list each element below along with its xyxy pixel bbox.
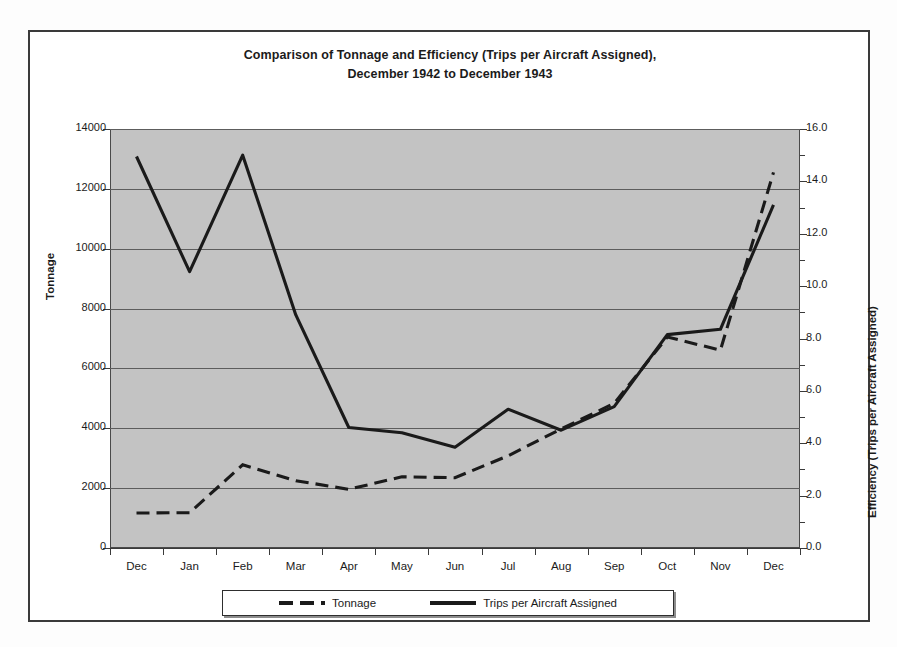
- y-tick-label-right: 12.0: [806, 226, 848, 238]
- y-tick-label-left: 4000: [48, 420, 106, 432]
- solid-line-icon: [430, 598, 476, 608]
- y-tick-label-left: 10000: [48, 241, 106, 253]
- series-line-trips: [137, 155, 774, 447]
- y-tick-label-right: 2.0: [806, 488, 848, 500]
- y-tick-right-minor: [800, 469, 805, 470]
- x-tick-label: Jan: [162, 560, 218, 572]
- y-tick-right-minor: [800, 208, 805, 209]
- chart-title-line-1: Comparison of Tonnage and Efficiency (Tr…: [244, 48, 657, 62]
- x-tick-label: Dec: [745, 560, 801, 572]
- x-tick: [110, 548, 111, 555]
- y-tick-label-left: 0: [48, 540, 106, 552]
- x-tick: [322, 548, 323, 555]
- dashed-line-icon: [279, 598, 325, 608]
- x-tick: [482, 548, 483, 555]
- x-tick: [694, 548, 695, 555]
- y-tick-label-left: 8000: [48, 301, 106, 313]
- legend-label-tonnage: Tonnage: [332, 597, 376, 609]
- x-tick: [269, 548, 270, 555]
- legend-item-trips: Trips per Aircraft Assigned: [430, 597, 617, 609]
- x-tick-label: Dec: [109, 560, 165, 572]
- y-tick-label-right: 4.0: [806, 435, 848, 447]
- x-tick: [163, 548, 164, 555]
- y-tick-right-minor: [800, 312, 805, 313]
- y-axis-right-title: Efficiency (Trips per Aircraft Assigned): [866, 306, 878, 518]
- x-tick: [747, 548, 748, 555]
- y-tick-label-right: 6.0: [806, 383, 848, 395]
- x-tick-label: Nov: [692, 560, 748, 572]
- plot-wrapper: 02000400060008000100001200014000 0.02.04…: [110, 129, 800, 548]
- chart-title-line-2: December 1942 to December 1943: [120, 65, 780, 84]
- x-tick: [216, 548, 217, 555]
- legend-item-tonnage: Tonnage: [279, 597, 376, 609]
- y-tick-label-left: 12000: [48, 181, 106, 193]
- y-tick-right-minor: [800, 522, 805, 523]
- y-tick-right-minor: [800, 260, 805, 261]
- y-tick-right-minor: [800, 155, 805, 156]
- series-lines: [110, 129, 800, 548]
- y-tick-label-left: 14000: [48, 121, 106, 133]
- y-tick-label-left: 6000: [48, 360, 106, 372]
- x-tick: [588, 548, 589, 555]
- y-tick-label-right: 10.0: [806, 278, 848, 290]
- legend-label-trips: Trips per Aircraft Assigned: [483, 597, 617, 609]
- x-tick-label: Jun: [427, 560, 483, 572]
- x-tick-label: Feb: [215, 560, 271, 572]
- x-tick-label: Apr: [321, 560, 377, 572]
- x-axis-line: [110, 548, 800, 549]
- y-tick-right-minor: [800, 417, 805, 418]
- chart-legend: Tonnage Trips per Aircraft Assigned: [222, 590, 674, 616]
- y-tick-label-left: 2000: [48, 480, 106, 492]
- y-axis-left-title: Tonnage: [44, 253, 56, 300]
- x-tick: [535, 548, 536, 555]
- x-tick-label: Oct: [639, 560, 695, 572]
- x-tick: [428, 548, 429, 555]
- chart-title: Comparison of Tonnage and Efficiency (Tr…: [120, 46, 780, 84]
- x-tick-label: Sep: [586, 560, 642, 572]
- x-tick-label: Aug: [533, 560, 589, 572]
- x-tick-label: Jul: [480, 560, 536, 572]
- x-tick-label: May: [374, 560, 430, 572]
- x-tick-label: Mar: [268, 560, 324, 572]
- x-tick: [375, 548, 376, 555]
- x-tick: [641, 548, 642, 555]
- y-tick-label-right: 0.0: [806, 540, 848, 552]
- y-tick-right-minor: [800, 365, 805, 366]
- x-tick: [800, 548, 801, 555]
- y-tick-label-right: 14.0: [806, 173, 848, 185]
- y-tick-label-right: 16.0: [806, 121, 848, 133]
- x-axis-labels: DecJanFebMarAprMayJunJulAugSepOctNovDec: [110, 560, 800, 578]
- y-tick-label-right: 8.0: [806, 331, 848, 343]
- chart-page: Comparison of Tonnage and Efficiency (Tr…: [0, 0, 897, 647]
- series-line-tonnage: [137, 172, 774, 513]
